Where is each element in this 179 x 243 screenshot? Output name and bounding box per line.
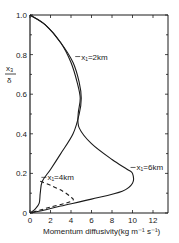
- plot-frame: [30, 15, 168, 213]
- x-tick-label: 2: [48, 216, 53, 225]
- curve-annotation: x₁=6km: [137, 163, 164, 172]
- x-tick-label: 0: [28, 216, 33, 225]
- curve-x-2km: [30, 15, 81, 213]
- y-tick-label: 0.8: [16, 51, 28, 60]
- y-tick-label: 1.0: [16, 11, 28, 20]
- curve-annotation: x₁=2km: [81, 53, 108, 62]
- momentum-diffusivity-chart: 02468101200.20.40.60.81.0 x₁=2kmx₁=4kmx₁…: [0, 0, 179, 243]
- x-axis-title: Momentum diffusivity(kg m⁻¹ s⁻¹): [43, 227, 161, 236]
- y-tick-label: 0.2: [16, 169, 28, 178]
- x-tick-label: 12: [149, 216, 158, 225]
- axis-tick-labels: 02468101200.20.40.60.81.0: [16, 11, 158, 225]
- y-tick-label: 0.4: [16, 130, 28, 139]
- curve-annotations: x₁=2kmx₁=4kmx₁=6km: [41, 53, 163, 183]
- x-tick-label: 8: [110, 216, 115, 225]
- x-tick-label: 10: [128, 216, 137, 225]
- y-tick-label: 0: [23, 209, 28, 218]
- y-label-numerator: x₃: [6, 64, 13, 73]
- y-tick-label: 0.6: [16, 90, 28, 99]
- data-curves: [30, 15, 133, 213]
- axis-ticks: [30, 15, 168, 213]
- y-axis-label: x₃ δ: [5, 64, 16, 85]
- curve-annotation: x₁=4km: [47, 173, 74, 182]
- y-label-denominator: δ: [7, 76, 12, 85]
- x-tick-label: 4: [69, 216, 74, 225]
- curve-x-6km: [30, 15, 133, 213]
- x-tick-label: 6: [89, 216, 94, 225]
